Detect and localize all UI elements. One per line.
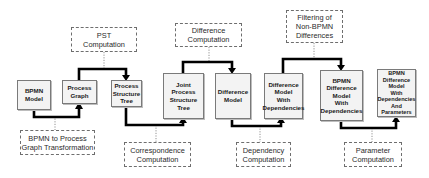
op-pst-computation: PST Computation xyxy=(71,27,137,52)
node-label: Difference Model With Dependencies xyxy=(263,81,305,111)
node-difference-model: Difference Model xyxy=(215,73,251,119)
node-label: Process Structure Tree xyxy=(113,82,141,105)
node-bpmn-model: BPMN Model xyxy=(17,80,51,110)
op-correspondence-computation: Correspondence Computation xyxy=(124,142,191,167)
op-label: Dependency Computation xyxy=(243,146,285,164)
op-dependency-computation: Dependency Computation xyxy=(236,142,291,167)
node-bpmn-difference-model-with-dependencies-and-parameters: BPMN Difference Model With Dependencies … xyxy=(377,69,416,117)
op-label: Parameter Computation xyxy=(352,146,394,164)
node-joint-process-structure-tree: Joint Process Structure Tree xyxy=(163,73,204,119)
node-difference-model-with-dependencies: Difference Model With Dependencies xyxy=(264,73,303,119)
node-label: Difference Model xyxy=(218,88,248,103)
op-label: Filtering of Non-BPMN Differences xyxy=(296,13,333,40)
node-label: BPMN Model xyxy=(25,87,43,102)
op-label: Correspondence Computation xyxy=(130,146,185,164)
node-process-structure-tree: Process Structure Tree xyxy=(111,80,142,107)
op-label: BPMN to Process Graph Transformation xyxy=(22,134,94,152)
node-bpmn-difference-model-with-dependencies: BPMN Difference Model With Dependencies xyxy=(320,70,363,121)
op-bpmn-to-process-graph-transformation: BPMN to Process Graph Transformation xyxy=(20,130,95,155)
node-label: Process Graph xyxy=(67,84,91,99)
op-label: PST Computation xyxy=(83,31,125,49)
node-label: BPMN Difference Model With Dependencies xyxy=(321,77,363,115)
op-parameter-computation: Parameter Computation xyxy=(344,142,402,167)
op-difference-computation: Difference Computation xyxy=(175,23,242,47)
node-label: BPMN Difference Model With Dependencies … xyxy=(378,70,416,116)
node-label: Joint Process Structure Tree xyxy=(170,81,198,111)
op-filtering-non-bpmn-differences: Filtering of Non-BPMN Differences xyxy=(286,10,343,43)
op-label: Difference Computation xyxy=(188,26,230,44)
node-process-graph: Process Graph xyxy=(62,80,97,104)
